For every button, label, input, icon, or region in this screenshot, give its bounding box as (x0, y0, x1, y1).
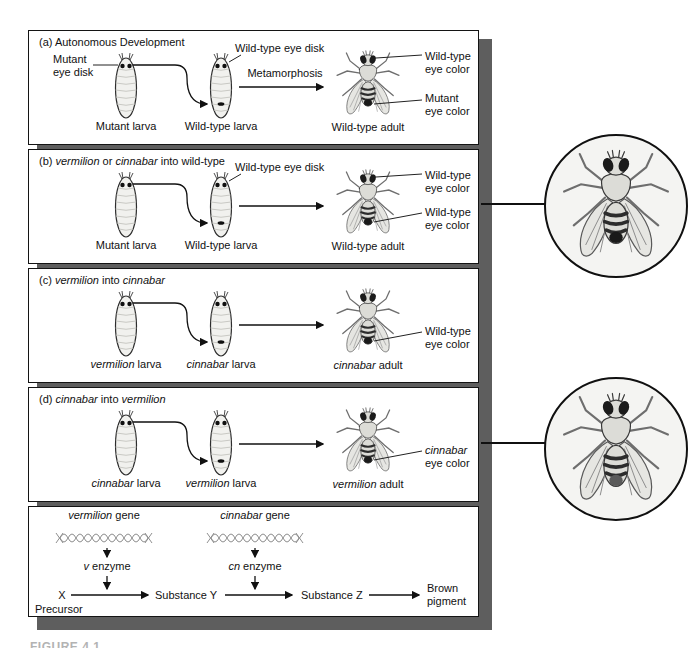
panel-a-title: (a) Autonomous Development (39, 36, 185, 49)
label-line: Wild-type (425, 169, 471, 182)
panel-c: (c) vermilion into cinnabar vermilion la… (28, 268, 479, 383)
panel-stack: (a) Autonomous Development Mutant eye di… (28, 30, 480, 617)
vermilion-gene-dna-icon (56, 533, 152, 543)
label-line: Mutant (425, 92, 470, 105)
label-part: gene (262, 509, 290, 521)
cinnabar-gene-dna-icon (207, 533, 303, 543)
larva2-label: Wild-type larva (171, 239, 271, 252)
wildtype-disk-label: Wild-type eye disk (235, 161, 324, 174)
label-part: gene (112, 509, 140, 521)
label-part: cinnabar (333, 359, 375, 371)
metamorphosis-label: Metamorphosis (235, 67, 335, 80)
label-line: eye color (425, 338, 471, 351)
title-part: vermilion (56, 155, 100, 167)
host-larva-icon (211, 291, 232, 356)
larva1-label: Mutant larva (76, 239, 176, 252)
label-line: Brown (427, 582, 466, 595)
title-part: cinnabar (123, 274, 165, 286)
label-part: larva (230, 477, 257, 489)
panel-pathway: vermilion gene cinnabar gene v enzyme cn… (28, 506, 479, 617)
larva2-label: Wild-type larva (171, 120, 271, 133)
label-line: eye disk (53, 66, 93, 79)
figure-caption: FIGURE 4.1 (30, 640, 100, 648)
transplant-arrow (133, 184, 207, 223)
title-part: vermilion (55, 274, 99, 286)
wildtype-disk-leader (229, 174, 241, 181)
cinnabar-gene-label: cinnabar gene (205, 509, 305, 522)
title-part: cinnabar (115, 155, 157, 167)
cinnabar-eye-fly-inset (544, 377, 688, 521)
wildtype-disk-leader (229, 55, 241, 62)
host-larva-icon (211, 410, 232, 475)
eye-color-label-bottom: Mutant eye color (425, 92, 470, 118)
vermilion-gene-label: vermilion gene (54, 509, 154, 522)
title-part: (c) (39, 274, 55, 286)
precursor-label: Precursor (35, 603, 83, 616)
panel-b-title: (b) vermilion or cinnabar into wild-type (39, 155, 225, 168)
host-larva-icon (211, 172, 232, 237)
eye-color-label-bottom: Wild-type eye color (425, 206, 471, 232)
label-line: Wild-type (425, 206, 471, 219)
eye-color-label-bottom: cinnabar eye color (425, 444, 470, 470)
donor-larva-icon (116, 172, 137, 237)
title-part: or (100, 155, 116, 167)
adult-fly-icon (337, 408, 399, 471)
title-part: cinnabar (56, 393, 98, 405)
label-line: cinnabar (425, 444, 470, 457)
label-part: larva (135, 358, 162, 370)
panel-a: (a) Autonomous Development Mutant eye di… (28, 30, 479, 145)
label-part: vermilion (186, 477, 230, 489)
adult-label: Wild-type adult (318, 240, 418, 253)
label-part: vermilion (333, 478, 377, 490)
brown-pigment-label: Brown pigment (427, 582, 466, 608)
label-line: Wild-type (425, 325, 471, 338)
precursor-x-label: X (55, 589, 69, 602)
larva2-label: vermilion larva (171, 477, 271, 490)
panel-c-title: (c) vermilion into cinnabar (39, 274, 165, 287)
eye-top-leader (376, 55, 422, 58)
label-line: eye color (425, 182, 471, 195)
label-part: larva (229, 358, 256, 370)
donor-larva-icon (116, 291, 137, 356)
transplant-arrow (133, 65, 207, 104)
eye-top-leader (376, 174, 422, 177)
substance-z-label: Substance Z (301, 589, 363, 602)
label-part: cinnabar (91, 477, 133, 489)
cn-enzyme-label: cn enzyme (205, 560, 305, 573)
adult-fly-icon (337, 51, 399, 114)
label-part: enzyme (240, 560, 282, 572)
label-part: adult (377, 478, 404, 490)
eye-color-label-bottom: Wild-type eye color (425, 325, 471, 351)
label-line: eye color (425, 219, 471, 232)
figure-stage: (a) Autonomous Development Mutant eye di… (0, 0, 691, 648)
larva1-label: vermilion larva (76, 358, 176, 371)
title-part: vermilion (122, 393, 166, 405)
adult-label: vermilion adult (318, 478, 418, 491)
fly-dorsal-photo-wildtype-eye (546, 136, 686, 276)
larva1-label: cinnabar larva (76, 477, 176, 490)
label-part: cinnabar (220, 509, 262, 521)
label-line: eye color (425, 63, 471, 76)
title-part: into wild-type (158, 155, 225, 167)
panel-b: (b) vermilion or cinnabar into wild-type… (28, 149, 479, 264)
eye-color-label-top: Wild-type eye color (425, 169, 471, 195)
label-part: vermilion (68, 509, 112, 521)
wildtype-disk-label: Wild-type eye disk (235, 42, 324, 55)
label-part: enzyme (89, 560, 131, 572)
label-part: cinnabar (186, 358, 228, 370)
adult-fly-icon (337, 170, 399, 233)
label-part: adult (376, 359, 403, 371)
label-line: eye color (425, 457, 470, 470)
inset-connector-top (481, 203, 545, 205)
fly-dorsal-photo-cinnabar-eye (546, 379, 686, 519)
donor-larva-icon (116, 53, 137, 118)
larva1-label: Mutant larva (76, 120, 176, 133)
wildtype-eye-fly-inset (544, 134, 688, 278)
adult-label: Wild-type adult (318, 121, 418, 134)
panel-d: (d) cinnabar into vermilion cinnabar lar… (28, 387, 479, 502)
title-part: (b) (39, 155, 56, 167)
host-larva-icon (211, 53, 232, 118)
mutant-disk-label: Mutant eye disk (53, 53, 93, 79)
label-part: cn (228, 560, 240, 572)
adult-label: cinnabar adult (318, 359, 418, 372)
